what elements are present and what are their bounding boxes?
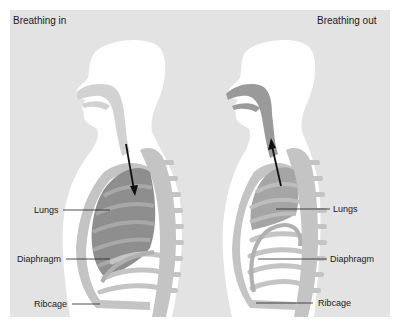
label-ribcage-out: Ribcage xyxy=(318,298,351,308)
breathing-diagram xyxy=(0,0,394,325)
label-diaphragm-out: Diaphragm xyxy=(330,254,374,264)
title-breathing-out: Breathing out xyxy=(317,15,377,26)
label-lungs-in: Lungs xyxy=(34,205,59,215)
figure-breathing-out xyxy=(223,40,330,317)
label-ribcage-in: Ribcage xyxy=(34,299,67,309)
figure-breathing-in xyxy=(63,40,184,317)
label-diaphragm-in: Diaphragm xyxy=(17,254,61,264)
title-breathing-in: Breathing in xyxy=(13,15,66,26)
label-lungs-out: Lungs xyxy=(333,204,358,214)
